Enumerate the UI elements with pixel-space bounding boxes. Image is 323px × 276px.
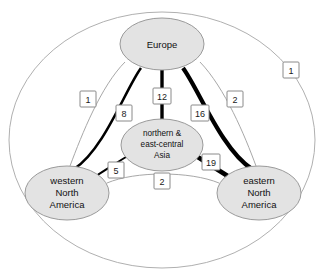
- edge-label-text: 19: [206, 158, 216, 168]
- edge-label-text: 1: [288, 66, 293, 76]
- node-western-north-america-label-line1: western: [49, 175, 83, 186]
- edge-label-text: 2: [232, 95, 237, 105]
- node-europe-label: Europe: [147, 39, 178, 50]
- edge-label-text: 5: [113, 166, 118, 176]
- node-western-north-america-label-line3: America: [50, 199, 86, 210]
- node-europe[interactable]: Europe: [120, 18, 204, 70]
- edge-label-europe-asia: 12: [153, 88, 171, 104]
- node-asia[interactable]: northern & east-central Asia: [121, 119, 203, 171]
- node-asia-label-line2: east-central: [141, 140, 184, 149]
- edge-label-asia-eastern-north-america: 19: [202, 154, 220, 170]
- edge-label-europe-eastern-north-america: 16: [191, 105, 209, 121]
- node-asia-label-line3: Asia: [154, 151, 170, 160]
- edge-label-europe-eastern-north-america-thin: 2: [227, 91, 243, 107]
- edge-label-text: 12: [157, 92, 167, 102]
- edge-label-text: 8: [121, 109, 126, 119]
- edge-label-europe-western-north-america-thin: 1: [80, 91, 96, 107]
- network-diagram: Europe northern & east-central Asia west…: [0, 0, 323, 276]
- node-eastern-north-america-label-line1: eastern: [243, 175, 275, 186]
- node-western-north-america-label-line2: North: [55, 187, 78, 198]
- edge-label-text: 16: [195, 109, 205, 119]
- edge-label-europe-western-north-america: 8: [116, 105, 132, 121]
- edge-label-asia-western-north-america: 5: [108, 162, 124, 178]
- node-western-north-america[interactable]: western North America: [25, 166, 109, 220]
- node-eastern-north-america[interactable]: eastern North America: [217, 166, 301, 220]
- diagram-canvas: Europe northern & east-central Asia west…: [0, 0, 323, 276]
- edge-label-text: 1: [85, 95, 90, 105]
- edge-label-western-eastern-north-america-thin: 2: [154, 173, 170, 189]
- node-eastern-north-america-label-line3: America: [242, 199, 278, 210]
- edge-label-outer-ring: 1: [283, 62, 299, 78]
- node-eastern-north-america-label-line2: North: [247, 187, 270, 198]
- node-asia-label-line1: northern &: [143, 129, 182, 138]
- edge-label-text: 2: [159, 177, 164, 187]
